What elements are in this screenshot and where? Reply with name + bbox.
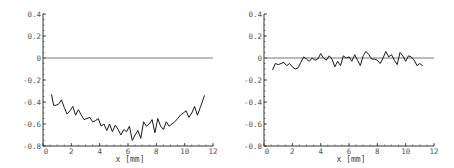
y-tick-label: -0.6 (244, 120, 263, 129)
x-tick-label: 8 (375, 147, 380, 156)
y-tick-label: -0.2 (23, 76, 41, 85)
x-axis-title: x [mm] (337, 155, 366, 164)
data-series-line (52, 94, 205, 140)
x-tick-label: 8 (154, 147, 159, 156)
y-tick-label: 0 (36, 54, 41, 63)
x-tick-label: 12 (429, 147, 438, 156)
x-tick-label: 4 (318, 147, 323, 156)
y-tick-label: 0.2 (27, 32, 41, 41)
x-tick-label: 10 (401, 147, 411, 156)
y-tick-label: 0.4 (27, 10, 41, 19)
y-tick-label: 0.4 (248, 10, 262, 19)
x-tick-label: 0 (265, 147, 270, 156)
x-tick-label: 4 (97, 147, 102, 156)
x-tick-label: 12 (208, 147, 217, 156)
y-tick-label: -0.2 (244, 76, 262, 85)
y-tick-label: -0.6 (23, 120, 42, 129)
data-series-line (273, 51, 423, 70)
x-tick-label: 10 (180, 147, 190, 156)
x-tick-label: 2 (69, 147, 74, 156)
chart-panel-2: 0.40.20-0.2-0.4-0.6-0.8024681012x [mm] (244, 10, 439, 165)
x-tick-label: 2 (290, 147, 295, 156)
y-tick-label: 0.2 (248, 32, 262, 41)
y-tick-label: 0 (257, 54, 262, 63)
y-tick-label: -0.8 (244, 142, 263, 151)
x-tick-label: 0 (44, 147, 49, 156)
chart-canvas: 0.40.20-0.2-0.4-0.6-0.8024681012x [mm]0.… (0, 0, 454, 168)
chart-panel-1: 0.40.20-0.2-0.4-0.6-0.8024681012x [mm] (23, 10, 218, 165)
y-tick-label: -0.4 (23, 98, 42, 107)
y-tick-label: -0.8 (23, 142, 42, 151)
x-axis-title: x [mm] (116, 155, 145, 164)
y-tick-label: -0.4 (244, 98, 263, 107)
